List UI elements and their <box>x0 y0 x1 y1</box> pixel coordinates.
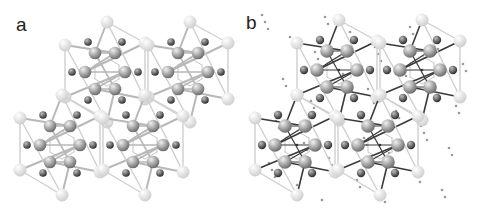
bond <box>103 118 145 195</box>
dark-atom <box>407 141 415 149</box>
bond <box>20 118 62 195</box>
dark-atom <box>151 68 159 76</box>
light-atom <box>332 164 345 177</box>
ring-atom <box>127 156 140 169</box>
dark-atom <box>316 36 324 44</box>
light-atom <box>14 164 27 177</box>
light-atom <box>101 16 114 29</box>
ring-atom <box>202 66 215 79</box>
dark-atom <box>217 68 225 76</box>
dot-atom <box>367 88 370 91</box>
ring-atom <box>433 63 447 77</box>
light-atom <box>291 89 304 102</box>
dark-atom <box>156 111 164 119</box>
light-atom <box>177 110 190 123</box>
dark-atom <box>106 141 114 149</box>
dot-atom <box>462 63 465 66</box>
panel-b: b <box>242 0 484 215</box>
ring-atom <box>278 119 292 133</box>
light-atom <box>374 89 387 102</box>
ring-atom <box>109 47 122 60</box>
dark-atom <box>350 94 358 102</box>
ring-atom <box>127 120 140 133</box>
dark-atom <box>274 169 282 177</box>
ring-atom <box>192 83 205 96</box>
light-atom <box>56 89 69 102</box>
dark-atom <box>391 111 399 119</box>
ring-atom <box>423 80 437 94</box>
ring-atom <box>340 80 354 94</box>
light-atom <box>14 112 27 125</box>
ring-atom <box>340 44 354 58</box>
dot-atom <box>441 189 444 192</box>
light-atom <box>249 112 262 125</box>
dot-atom <box>267 28 270 31</box>
light-atom <box>454 35 467 48</box>
light-atom <box>454 91 467 104</box>
light-atom <box>332 112 345 125</box>
ring-atom <box>308 138 322 152</box>
dot-atom <box>448 147 451 150</box>
ring-atom <box>74 139 87 152</box>
ring-atom <box>172 83 185 96</box>
panel-label-a: a <box>16 15 27 34</box>
dot-atom <box>314 51 317 54</box>
dark-atom <box>399 36 407 44</box>
dark-atom <box>300 66 308 74</box>
dark-atom <box>73 111 81 119</box>
dark-atom <box>399 94 407 102</box>
ring-atom <box>79 66 92 79</box>
ring-atom <box>361 155 375 169</box>
dark-atom <box>308 111 316 119</box>
light-atom <box>59 39 72 52</box>
dark-atom <box>316 94 324 102</box>
ring-atom <box>278 155 292 169</box>
light-atom <box>97 112 110 125</box>
ring-atom <box>64 156 77 169</box>
dot-atom <box>271 169 274 172</box>
dark-atom <box>89 141 97 149</box>
dark-atom <box>391 169 399 177</box>
dot-atom <box>289 36 292 39</box>
ring-atom <box>351 138 365 152</box>
ring-atom <box>320 44 334 58</box>
dark-atom <box>39 169 47 177</box>
ring-atom <box>172 47 185 60</box>
dot-atom <box>359 186 362 189</box>
light-atom <box>416 14 429 27</box>
dot-atom <box>317 58 320 61</box>
ring-atom <box>423 44 437 58</box>
dark-atom <box>118 38 126 46</box>
ring-atom <box>381 155 395 169</box>
ring-atom <box>361 119 375 133</box>
ring-atom <box>192 47 205 60</box>
dark-atom <box>357 169 365 177</box>
dot-atom <box>324 16 327 19</box>
ring-atom <box>64 120 77 133</box>
ring-atom <box>403 80 417 94</box>
light-atom <box>412 110 425 123</box>
ring-atom <box>320 80 334 94</box>
dot-atom <box>303 142 306 145</box>
ring-atom <box>147 156 160 169</box>
dot-atom <box>363 137 366 140</box>
ring-atom <box>119 66 132 79</box>
light-atom <box>142 39 155 52</box>
ring-atom <box>157 139 170 152</box>
dot-atom <box>458 112 461 115</box>
light-atom <box>249 164 262 177</box>
dot-atom <box>444 196 447 199</box>
light-atom <box>333 14 346 27</box>
dark-atom <box>308 169 316 177</box>
dot-atom <box>264 21 267 24</box>
dark-atom <box>68 68 76 76</box>
dot-atom <box>405 75 408 78</box>
light-atom <box>374 37 387 50</box>
ring-atom <box>44 156 57 169</box>
dark-atom <box>449 66 457 74</box>
dark-atom <box>201 96 209 104</box>
dark-atom <box>274 111 282 119</box>
light-atom <box>177 166 190 179</box>
dark-atom <box>433 36 441 44</box>
dark-atom <box>73 169 81 177</box>
